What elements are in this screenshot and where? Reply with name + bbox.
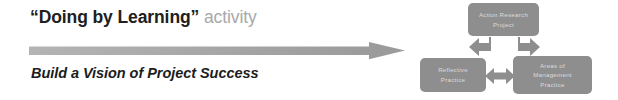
node-label-line: Practice xyxy=(533,80,572,90)
subheadline: Build a Vision of Project Success xyxy=(31,66,258,81)
node-label: Action Research Project xyxy=(479,10,528,29)
node-label-line: Areas of xyxy=(533,61,572,71)
node-label-line: Practice xyxy=(438,75,468,85)
node-label-line: Project xyxy=(479,20,528,30)
bent-arrow-down-right-icon xyxy=(518,37,540,57)
connector-top-to-right xyxy=(518,37,540,57)
node-label-line: Management xyxy=(533,70,572,80)
connector-left-to-right xyxy=(485,66,515,86)
double-arrow-horizontal-icon xyxy=(485,66,515,86)
headline-activity-text: activity xyxy=(199,7,256,27)
node-reflective-practice[interactable]: Reflective Practice xyxy=(420,58,486,92)
progress-arrow-icon xyxy=(29,41,405,60)
node-action-research-project[interactable]: Action Research Project xyxy=(468,3,539,36)
headline: “Doing by Learning” activity xyxy=(30,9,257,27)
process-diagram: Action Research Project Reflective Pract… xyxy=(415,0,618,100)
connector-top-to-left xyxy=(469,37,491,57)
left-panel: “Doing by Learning” activity Build a Vis… xyxy=(0,0,415,100)
progress-arrow xyxy=(29,41,405,60)
node-label: Areas of Management Practice xyxy=(533,61,572,90)
node-label-line: Action Research xyxy=(479,10,528,20)
headline-quoted-text: “Doing by Learning” xyxy=(30,7,199,27)
node-label-line: Reflective xyxy=(438,65,468,75)
slide-canvas: “Doing by Learning” activity Build a Vis… xyxy=(0,0,618,100)
bent-arrow-down-left-icon xyxy=(469,37,491,57)
node-label: Reflective Practice xyxy=(438,65,468,84)
node-areas-of-management-practice[interactable]: Areas of Management Practice xyxy=(513,56,592,94)
